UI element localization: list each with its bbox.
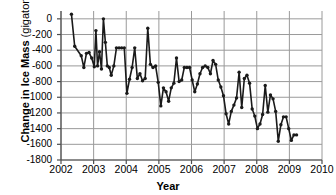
data-point [98, 50, 101, 53]
data-point [104, 41, 107, 44]
data-point [248, 81, 251, 84]
data-point [175, 56, 178, 59]
data-point [138, 72, 141, 75]
data-point [261, 113, 264, 116]
data-point [274, 110, 277, 113]
data-point [87, 51, 90, 54]
data-point [198, 72, 201, 75]
data-point [143, 77, 146, 80]
data-point [133, 46, 136, 49]
data-point [222, 94, 225, 97]
x-axis-tick-labels: 200220032004200520062007200820092010 [0, 163, 336, 177]
data-point [235, 96, 238, 99]
data-point [206, 66, 209, 69]
data-point [193, 90, 196, 93]
data-point [108, 66, 111, 69]
data-point [209, 72, 212, 75]
data-point [256, 127, 259, 130]
data-point [243, 77, 246, 80]
data-point [162, 86, 165, 89]
data-point [277, 139, 280, 142]
data-point [190, 78, 193, 81]
data-point [94, 29, 97, 32]
x-tick-label: 2010 [302, 163, 336, 175]
data-point [100, 67, 103, 70]
data-point [180, 78, 183, 81]
data-point [227, 122, 230, 125]
data-point [96, 64, 99, 67]
data-point [141, 79, 144, 82]
data-point [196, 82, 199, 85]
data-point [102, 17, 105, 20]
data-point [295, 133, 298, 136]
data-point [264, 84, 267, 87]
data-point [154, 64, 157, 67]
data-point [219, 85, 222, 88]
data-point [266, 110, 269, 113]
data-point [125, 92, 128, 95]
data-point [157, 81, 160, 84]
data-point [217, 78, 220, 81]
data-point [250, 107, 253, 110]
data-point [290, 139, 293, 142]
data-point [287, 127, 290, 130]
data-point [211, 59, 214, 62]
data-point [172, 81, 175, 84]
data-point [149, 63, 152, 66]
data-point [123, 46, 126, 49]
data-point [237, 70, 240, 73]
data-point [188, 66, 191, 69]
data-point [245, 74, 248, 77]
data-point [70, 12, 73, 15]
data-point [258, 122, 261, 125]
data-point [224, 112, 227, 115]
data-point [214, 63, 217, 66]
data-point [167, 99, 170, 102]
data-point [253, 114, 256, 117]
data-point [93, 65, 96, 68]
data-point [130, 66, 133, 69]
data-point [110, 74, 113, 77]
data-point [136, 77, 139, 80]
data-point [90, 56, 93, 59]
data-point [146, 27, 149, 30]
data-point [230, 110, 233, 113]
data-line [71, 14, 296, 141]
data-point [159, 104, 162, 107]
data-point [279, 123, 282, 126]
data-point [269, 93, 272, 96]
data-point [232, 103, 235, 106]
data-point [112, 64, 115, 67]
data-point [82, 66, 85, 69]
data-point [240, 106, 243, 109]
data-point [164, 90, 167, 93]
data-point [80, 54, 83, 57]
data-point [271, 97, 274, 100]
data-point [73, 45, 76, 48]
data-point [128, 78, 131, 81]
x-axis-label: Year [0, 180, 336, 192]
ice-mass-chart: Change in Ice Mass (gigatons) 0-200-400-… [0, 0, 336, 195]
data-point [170, 86, 173, 89]
data-point [284, 115, 287, 118]
